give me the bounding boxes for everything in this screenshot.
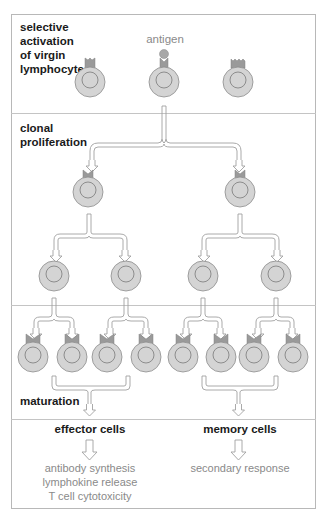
memory-function-arrow bbox=[231, 440, 246, 460]
antigen-icon bbox=[160, 50, 169, 59]
proliferating-cell-left bbox=[73, 170, 103, 207]
dividing-cell-2 bbox=[111, 261, 141, 291]
clone-cell-5 bbox=[168, 334, 198, 372]
maturation-bracket-effector bbox=[52, 376, 130, 404]
clone-cell-4 bbox=[131, 334, 161, 372]
dividing-cell-1 bbox=[39, 261, 69, 291]
arrow-to-memory bbox=[233, 404, 245, 416]
split-arrows-4 bbox=[34, 298, 294, 328]
clone-cell-7 bbox=[239, 334, 269, 372]
receptor-v-notch-icon bbox=[160, 58, 168, 68]
clone-cell-6 bbox=[206, 334, 236, 372]
clone-cell-1 bbox=[18, 334, 48, 372]
effector-function-arrow bbox=[82, 440, 97, 460]
clonal-selection-diagram bbox=[0, 0, 325, 514]
proliferating-cell-right bbox=[225, 170, 255, 207]
split-arrow-3 bbox=[202, 214, 279, 250]
clone-cell-8 bbox=[278, 334, 308, 372]
split-arrow-2 bbox=[54, 214, 127, 250]
maturation-bracket-memory bbox=[202, 376, 278, 404]
virgin-lymphocyte-3 bbox=[223, 59, 253, 97]
dividing-cell-4 bbox=[261, 261, 291, 291]
clone-cell-2 bbox=[57, 334, 87, 372]
virgin-lymphocyte-1 bbox=[75, 58, 105, 97]
split-arrow-1 bbox=[90, 106, 241, 160]
arrow-to-effector bbox=[84, 404, 96, 416]
virgin-lymphocyte-selected bbox=[149, 50, 179, 98]
clone-cell-3 bbox=[92, 334, 122, 372]
dividing-cell-3 bbox=[188, 261, 218, 291]
receptor-square-notch-icon bbox=[85, 58, 95, 68]
